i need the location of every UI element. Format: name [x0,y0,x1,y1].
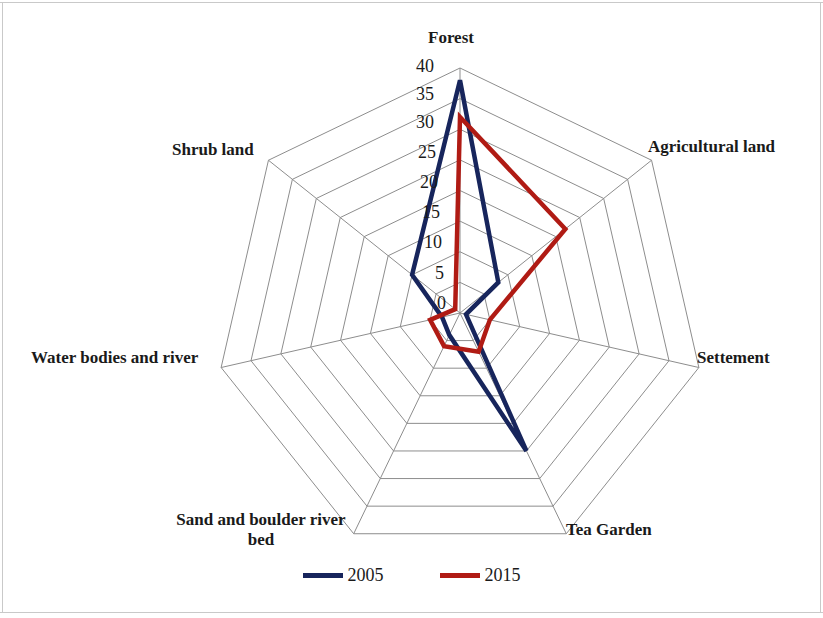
legend-label-2005: 2005 [348,565,384,586]
axis-label-settement: Settement [697,348,770,368]
rtick-5: 5 [410,263,444,284]
radar-series-2015 [430,117,565,352]
axis-label-shrub-land: Shrub land [172,140,254,160]
rtick-20: 20 [404,172,438,193]
rtick-0: 0 [412,293,446,314]
radar-spoke-5 [221,313,460,368]
legend-item-2005[interactable]: 2005 [303,565,384,586]
chart-legend: 2005 2015 [0,565,823,586]
legend-item-2015[interactable]: 2015 [440,565,521,586]
axis-label-agricultural-land: Agricultural land [648,137,775,157]
radar-spoke-2 [460,313,699,368]
rtick-30: 30 [400,112,434,133]
rtick-25: 25 [402,142,436,163]
axis-label-tea-garden: Tea Garden [566,520,652,540]
rtick-35: 35 [400,84,434,105]
legend-swatch-2015 [440,573,480,578]
chart-figure: 40 35 30 25 20 15 10 5 0 Forest Agricult… [0,0,823,618]
legend-label-2015: 2015 [485,565,521,586]
axis-label-sand-line2: bed [248,530,274,549]
rtick-15: 15 [406,202,440,223]
rtick-40: 40 [400,56,434,77]
axis-label-sand-line1: Sand and boulder river [176,510,345,529]
axis-label-water-bodies-and-river: Water bodies and river [31,348,198,368]
legend-swatch-2005 [303,573,343,578]
axis-label-forest: Forest [428,28,474,48]
axis-label-sand-and-boulder-river-bed: Sand and boulder river bed [155,510,367,549]
rtick-10: 10 [408,232,442,253]
